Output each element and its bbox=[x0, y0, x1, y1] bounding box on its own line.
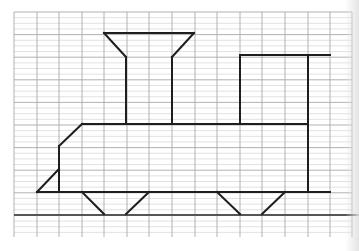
paper-background bbox=[0, 0, 359, 251]
paper-edge-shadow bbox=[345, 0, 359, 251]
graph-paper-drawing bbox=[0, 0, 359, 251]
